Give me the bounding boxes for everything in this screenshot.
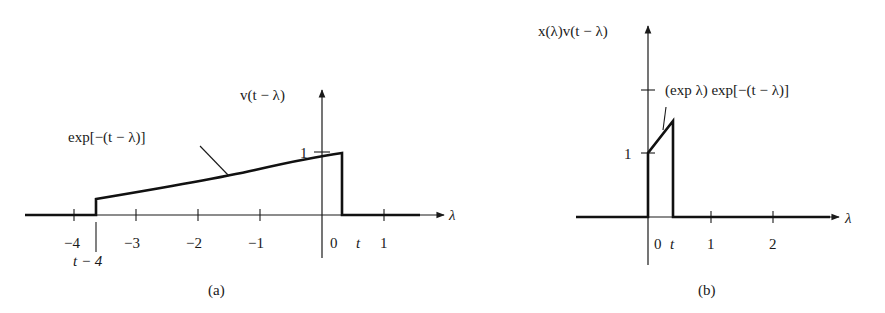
x-axis-label-b: λ [844, 210, 852, 226]
x-tick-label: −2 [186, 235, 202, 251]
x-tick-label: −1 [248, 235, 264, 251]
signal-curve-a [25, 153, 420, 215]
shift-label-a: t − 4 [73, 253, 103, 269]
t-label-a: t [356, 235, 361, 251]
t-label-b: t [670, 236, 675, 252]
curve-label-a: exp[−(t − λ)] [68, 129, 146, 146]
x-tick-label: 2 [769, 236, 777, 252]
x-tick-label: −3 [124, 235, 140, 251]
panel-a: v(t − λ) λ exp[−(t − λ)] 1 −4 −3 −2 −1 0… [25, 87, 456, 299]
panel-b: x(λ)v(t − λ) λ (exp λ) exp[−(t − λ)] 1 0… [538, 23, 852, 299]
curve-label-b: (exp λ) exp[−(t − λ)] [665, 82, 789, 99]
leader-line-b [663, 107, 666, 130]
x-tick-label: 1 [707, 236, 715, 252]
leader-line-a [200, 146, 229, 176]
caption-b: (b) [698, 282, 716, 299]
x-tick-label: 1 [380, 235, 388, 251]
x-axis-label-a: λ [448, 207, 456, 223]
y-tick-label-a: 1 [300, 145, 308, 161]
y-tick-label-b: 1 [624, 146, 632, 162]
x-tick-label: −4 [64, 235, 80, 251]
y-axis-label-a: v(t − λ) [240, 87, 285, 104]
product-curve-b [576, 121, 830, 217]
x-tick-label: 0 [330, 235, 338, 251]
caption-a: (a) [208, 282, 225, 299]
y-axis-label-b: x(λ)v(t − λ) [538, 23, 608, 40]
x-tick-label: 0 [654, 236, 662, 252]
figure: v(t − λ) λ exp[−(t − λ)] 1 −4 −3 −2 −1 0… [0, 0, 885, 313]
